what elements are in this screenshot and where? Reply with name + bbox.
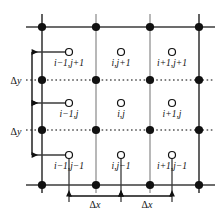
cell-marker bbox=[169, 152, 176, 159]
cell-marker bbox=[169, 100, 176, 107]
cell-marker bbox=[66, 49, 73, 56]
cell-marker bbox=[66, 152, 73, 159]
cell-marker bbox=[118, 152, 125, 159]
cell-label-im1-jp1: i−1,j+1 bbox=[54, 58, 84, 68]
cell-marker bbox=[118, 49, 125, 56]
cell-label-i-jp1: i,j+1 bbox=[112, 58, 131, 68]
cell-label-i-jm1: i,j−1 bbox=[112, 161, 131, 171]
grid-diagram: i−1,j+1 i,j+1 i+1,j+1 i−1,j i,j i+1,j i−… bbox=[0, 0, 221, 212]
cell-label-ip1-j: i+1,j bbox=[163, 109, 182, 119]
cell-marker bbox=[118, 100, 125, 107]
cell-marker bbox=[66, 100, 73, 107]
delta-y-label-lower: Δy bbox=[11, 126, 22, 137]
cell-label-im1-jm1: i−1,j−1 bbox=[54, 161, 84, 171]
delta-x-label-right: Δx bbox=[142, 199, 153, 210]
delta-x-label-left: Δx bbox=[90, 199, 101, 210]
grid-diagram-canvas: i−1,j+1 i,j+1 i+1,j+1 i−1,j i,j i+1,j i−… bbox=[0, 0, 221, 212]
cell-marker bbox=[169, 49, 176, 56]
cell-label-im1-j: i−1,j bbox=[60, 109, 79, 119]
cell-label-ip1-jm1: i+1,j−1 bbox=[157, 161, 187, 171]
delta-y-label-upper: Δy bbox=[11, 75, 22, 86]
cell-label-i-j: i,j bbox=[117, 109, 125, 119]
cell-label-ip1-jp1: i+1,j+1 bbox=[157, 58, 187, 68]
